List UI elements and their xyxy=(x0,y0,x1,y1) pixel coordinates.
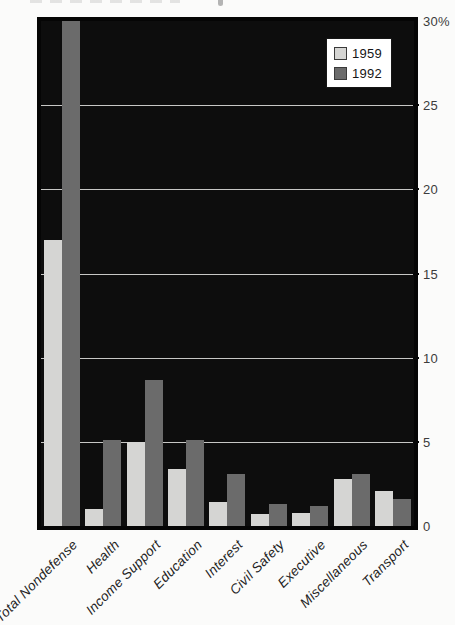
bar-1992-education xyxy=(186,440,204,526)
legend: 1959 1992 xyxy=(326,38,392,88)
bar-1992-executive xyxy=(310,506,328,526)
bar-group-miscellaneous xyxy=(331,21,372,526)
y-axis-tick-20 xyxy=(413,188,419,190)
cropped-caption-artifact-dot xyxy=(218,0,223,6)
bar-1959-miscellaneous xyxy=(334,479,352,526)
y-axis-tick-15 xyxy=(413,273,419,275)
bar-1992-income-support xyxy=(145,380,163,526)
legend-label-1959: 1959 xyxy=(352,46,382,61)
bar-1992-civil-safety xyxy=(269,504,287,526)
bar-group-civil-safety xyxy=(248,21,289,526)
cropped-caption-artifact xyxy=(30,0,180,3)
plot-area xyxy=(37,17,418,530)
bar-1959-health xyxy=(85,509,103,526)
bar-group-interest xyxy=(207,21,248,526)
bar-1992-transport xyxy=(393,499,411,526)
bar-group-executive xyxy=(290,21,331,526)
bar-1959-income-support xyxy=(127,442,145,526)
y-axis-label-30: 30% xyxy=(423,14,450,29)
bar-1959-total-nondefense xyxy=(44,240,62,526)
y-axis-label-0: 0 xyxy=(423,519,431,534)
y-axis-tick-25 xyxy=(413,104,419,106)
legend-swatch-1992 xyxy=(334,67,347,80)
bar-group-income-support xyxy=(124,21,165,526)
legend-item-1992: 1992 xyxy=(334,66,385,81)
y-axis-label-10: 10 xyxy=(423,350,438,365)
bar-group-health xyxy=(82,21,123,526)
bar-group-total-nondefense xyxy=(41,21,82,526)
y-axis-label-25: 25 xyxy=(423,98,438,113)
bar-groups xyxy=(41,21,414,526)
legend-item-1959: 1959 xyxy=(334,46,385,61)
bar-1959-interest xyxy=(209,502,227,526)
bar-group-transport xyxy=(373,21,414,526)
bar-1959-education xyxy=(168,469,186,526)
y-axis-label-20: 20 xyxy=(423,182,438,197)
bar-1992-miscellaneous xyxy=(352,474,370,526)
bar-1992-health xyxy=(103,440,121,526)
x-axis-label-total-nondefense: Total Nondefense xyxy=(0,537,80,625)
bar-1992-total-nondefense xyxy=(62,21,80,526)
y-axis-label-15: 15 xyxy=(423,266,438,281)
bar-group-education xyxy=(165,21,206,526)
y-axis-tick-5 xyxy=(413,441,419,443)
x-axis-label-income-support: Income Support xyxy=(83,537,164,618)
bar-1992-interest xyxy=(227,474,245,526)
bar-1959-transport xyxy=(375,491,393,526)
legend-label-1992: 1992 xyxy=(352,66,382,81)
y-axis-label-5: 5 xyxy=(423,434,431,449)
y-axis-tick-10 xyxy=(413,357,419,359)
x-axis-label-health: Health xyxy=(82,537,121,576)
bar-1959-executive xyxy=(292,513,310,526)
legend-swatch-1959 xyxy=(334,47,347,60)
bar-1959-civil-safety xyxy=(251,514,269,526)
